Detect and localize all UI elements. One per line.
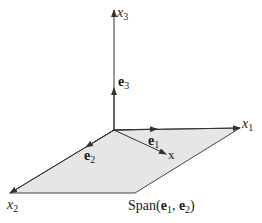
x-vector-label: x (168, 147, 175, 162)
span-diagram: x3 x1 x2 e3 e1 e2 x Span(e1, e2) (0, 0, 262, 223)
span-plane (10, 128, 240, 193)
x3-axis-label: x3 (116, 5, 128, 22)
e3-label: e3 (118, 74, 129, 91)
span-label: Span(e1, e2) (128, 198, 195, 215)
x1-axis-label: x1 (241, 116, 253, 133)
x2-axis-label: x2 (6, 197, 18, 214)
diagram-canvas: x3 x1 x2 e3 e1 e2 x Span(e1, e2) (0, 0, 262, 223)
